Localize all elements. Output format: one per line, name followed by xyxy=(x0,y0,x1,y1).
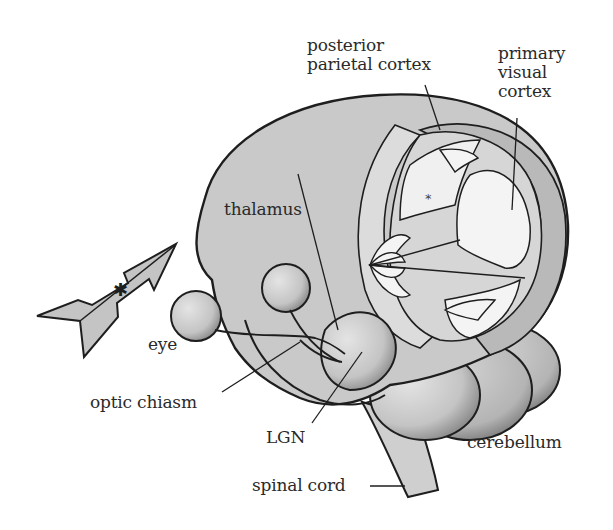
asterisk-marker: * xyxy=(425,191,432,206)
eye-shape xyxy=(171,291,221,341)
label-eye: eye xyxy=(148,335,177,354)
label-lgn: LGN xyxy=(266,428,305,447)
label-optic-chiasm: optic chiasm xyxy=(90,393,197,412)
label-posterior-parietal-cortex: posterior parietal cortex xyxy=(307,36,431,74)
label-thalamus: thalamus xyxy=(224,200,302,219)
thalamus-shape xyxy=(262,264,310,312)
label-cerebellum: cerebellum xyxy=(467,433,562,452)
label-primary-visual-cortex: primary visual cortex xyxy=(498,44,565,101)
label-spinal-cord: spinal cord xyxy=(252,476,346,495)
arrow-cross-marker: ✱ xyxy=(113,279,128,300)
